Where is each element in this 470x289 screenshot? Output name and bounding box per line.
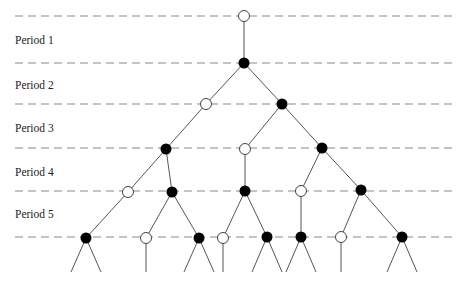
tree-edge (361, 190, 402, 237)
tree-edge (166, 149, 172, 192)
tree-edge (244, 63, 282, 104)
open-node-icon (239, 11, 250, 22)
tree-edge (128, 149, 166, 192)
tree-edge (206, 63, 244, 104)
tree-edge (245, 104, 282, 149)
filled-node-icon (277, 99, 288, 110)
leaf-stub (199, 238, 214, 272)
period-label-1: Period 1 (15, 34, 54, 46)
open-node-icon (240, 144, 251, 155)
open-node-icon (296, 186, 307, 197)
period-label-5: Period 5 (15, 208, 54, 220)
tree-edge (245, 191, 267, 237)
filled-node-icon (239, 58, 250, 69)
tree-edge (223, 191, 245, 238)
game-tree-diagram (0, 0, 470, 289)
period-label-3: Period 3 (15, 122, 54, 134)
leaf-stub (86, 238, 101, 272)
tree-edge (341, 190, 361, 237)
tree-edge (172, 192, 199, 238)
open-node-icon (141, 233, 152, 244)
tree-edge (301, 148, 322, 191)
tree-leaf-stubs (71, 237, 417, 272)
tree-edges (86, 16, 402, 238)
leaf-stub (387, 237, 402, 272)
tree-edge (282, 104, 322, 148)
filled-node-icon (296, 232, 307, 243)
leaf-stub (402, 237, 417, 272)
filled-node-icon (81, 233, 92, 244)
open-node-icon (123, 187, 134, 198)
filled-node-icon (167, 187, 178, 198)
open-node-icon (201, 99, 212, 110)
filled-node-icon (194, 233, 205, 244)
filled-node-icon (161, 144, 172, 155)
filled-node-icon (240, 186, 251, 197)
filled-node-icon (397, 232, 408, 243)
period-label-2: Period 2 (15, 79, 54, 91)
leaf-stub (301, 237, 316, 272)
tree-edge (322, 148, 361, 190)
tree-edge (166, 104, 206, 149)
tree-edge (86, 192, 128, 238)
period-divider-lines (15, 16, 457, 237)
leaf-stub (71, 238, 86, 272)
filled-node-icon (317, 143, 328, 154)
leaf-stub (267, 237, 282, 272)
tree-edge (146, 192, 172, 238)
period-label-4: Period 4 (15, 166, 54, 178)
open-node-icon (336, 232, 347, 243)
filled-node-icon (262, 232, 273, 243)
leaf-stub (286, 237, 301, 272)
open-node-icon (218, 233, 229, 244)
leaf-stub (252, 237, 267, 272)
filled-node-icon (356, 185, 367, 196)
leaf-stub (184, 238, 199, 272)
